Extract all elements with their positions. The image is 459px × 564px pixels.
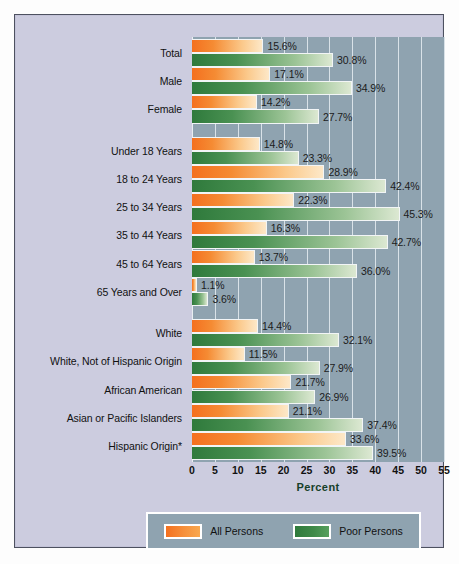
bar-value-label: 21.1% [293,405,322,417]
bar-row: 34.9% [192,81,444,95]
category-label: 45 to 64 Years [116,258,182,270]
bar-poor-persons [192,333,339,347]
bar-all-persons [192,193,294,207]
bar-value-label: 36.0% [361,265,390,277]
bar-poor-persons [192,81,352,95]
x-tick-label-45: 45 [392,464,404,476]
gridline-55 [444,37,445,462]
bar-value-label: 42.4% [390,180,419,192]
bar-row: 23.3% [192,151,444,165]
bar-value-label: 34.9% [356,82,385,94]
bar-value-label: 14.2% [261,96,290,108]
bar-value-label: 27.9% [324,362,353,374]
bar-value-label: 11.5% [249,348,278,360]
legend-label-poor-persons: Poor Persons [339,525,403,537]
x-tick-label-0: 0 [189,464,195,476]
bar-all-persons [192,137,260,151]
bar-poor-persons [192,390,315,404]
bar-row: 16.3% [192,221,444,235]
bar-row: 42.4% [192,179,444,193]
legend-item-all-persons: All Persons [164,524,263,539]
category-label: Asian or Pacific Islanders [67,412,182,424]
x-tick-label-20: 20 [278,464,290,476]
bar-value-label: 21.7% [295,376,324,388]
category-axis: TotalMaleFemaleUnder 18 Years18 to 24 Ye… [15,37,187,462]
bar-row: 21.7% [192,375,444,389]
x-axis-ticks: 0510152025303540455055 [192,464,444,480]
bar-row: 3.6% [192,292,444,306]
bar-value-label: 1.1% [201,279,225,291]
category-label: White, Not of Hispanic Origin [50,355,182,367]
bar-poor-persons [192,53,333,67]
bar-row: 14.4% [192,319,444,333]
bar-all-persons [192,67,270,81]
legend-swatch-poor-persons [293,524,331,539]
bar-value-label: 23.3% [303,152,332,164]
bar-poor-persons [192,418,363,432]
bar-value-label: 39.5% [377,447,406,459]
bar-all-persons [192,250,255,264]
bar-poor-persons [192,235,388,249]
x-tick-label-55: 55 [438,464,450,476]
category-label: 35 to 44 Years [116,229,182,241]
bar-all-persons [192,39,263,53]
bar-poor-persons [192,207,400,221]
bar-poor-persons [192,292,208,306]
x-tick-label-25: 25 [301,464,313,476]
bar-value-label: 30.8% [337,54,366,66]
bar-row: 27.9% [192,361,444,375]
bar-all-persons [192,165,324,179]
bar-row: 11.5% [192,347,444,361]
chart-figure: TotalMaleFemaleUnder 18 Years18 to 24 Ye… [0,0,459,564]
bar-poor-persons [192,264,357,278]
bar-row: 21.1% [192,404,444,418]
category-label: Under 18 Years [111,145,182,157]
bar-row: 33.6% [192,432,444,446]
bar-row: 14.8% [192,137,444,151]
legend-item-poor-persons: Poor Persons [293,524,403,539]
bar-all-persons [192,278,197,292]
x-axis-title: Percent [192,481,444,493]
bar-row: 17.1% [192,67,444,81]
bar-value-label: 45.3% [404,208,433,220]
legend-swatch-all-persons [164,524,202,539]
bar-poor-persons [192,361,320,375]
bar-poor-persons [192,179,386,193]
bar-row: 39.5% [192,446,444,460]
bar-poor-persons [192,151,299,165]
category-label: 25 to 34 Years [116,201,182,213]
bar-row: 1.1% [192,278,444,292]
x-tick-label-35: 35 [347,464,359,476]
bar-all-persons [192,432,346,446]
bar-row: 28.9% [192,165,444,179]
bar-row: 27.7% [192,109,444,123]
x-tick-label-30: 30 [324,464,336,476]
bar-row: 32.1% [192,333,444,347]
bar-value-label: 14.8% [264,138,293,150]
bar-value-label: 32.1% [343,334,372,346]
x-tick-label-10: 10 [232,464,244,476]
bar-row: 15.6% [192,39,444,53]
category-label: 18 to 24 Years [116,173,182,185]
bar-all-persons [192,319,258,333]
bar-value-label: 26.9% [319,391,348,403]
category-label: White [156,327,182,339]
bar-row: 13.7% [192,250,444,264]
bar-row: 26.9% [192,390,444,404]
x-tick-label-40: 40 [369,464,381,476]
bar-row: 22.3% [192,193,444,207]
bar-row: 14.2% [192,95,444,109]
category-label: African American [104,384,182,396]
x-tick-label-15: 15 [255,464,267,476]
bar-row: 37.4% [192,418,444,432]
bar-row: 45.3% [192,207,444,221]
bar-row: 42.7% [192,235,444,249]
x-tick-label-50: 50 [415,464,427,476]
category-label: Female [148,103,182,115]
bar-value-label: 42.7% [392,236,421,248]
bar-value-label: 15.6% [267,40,296,52]
bar-value-label: 13.7% [259,251,288,263]
bar-poor-persons [192,446,373,460]
bar-all-persons [192,221,267,235]
bar-value-label: 28.9% [328,166,357,178]
